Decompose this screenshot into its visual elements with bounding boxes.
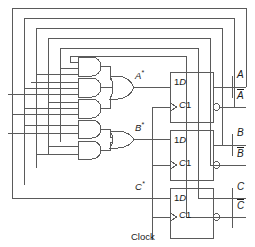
and-a-to-or-a-wires	[101, 67, 112, 109]
feedback-loop-1	[12, 8, 246, 198]
circuit-diagram: A* B* C* 1D C1 1D C1 1D C1 A A B B C C C…	[0, 0, 255, 247]
flipflop-c-clock-triangle	[170, 213, 177, 221]
output-label-b: B	[237, 127, 244, 138]
and-gate-b2	[78, 141, 101, 159]
and-gate-a2	[78, 78, 101, 97]
output-label-a-bar: A	[237, 90, 244, 101]
left-bus-horizontals	[8, 94, 12, 114]
and-gate-a3	[78, 99, 101, 118]
circuit-schematic-svg	[0, 0, 255, 247]
or-gate-b	[110, 131, 134, 148]
flipflop-a-data-label: 1D	[174, 76, 186, 87]
or-gate-a	[110, 76, 134, 99]
signal-label-c-next: C*	[135, 180, 145, 192]
flipflop-b-data-label: 1D	[174, 134, 186, 145]
clock-label: Clock	[131, 231, 155, 242]
flipflop-b-clock-label: C1	[179, 157, 191, 168]
gate-input-bus-lines	[8, 62, 78, 154]
and-gate-b1	[78, 120, 101, 138]
signal-label-a-next: A*	[135, 69, 144, 81]
flipflop-a-qbar-bubble	[213, 104, 219, 110]
flipflop-a-clock-triangle	[170, 103, 177, 111]
flipflop-b-clock-triangle	[170, 161, 177, 169]
output-label-c-bar: C	[237, 200, 244, 211]
feedback-loop-3	[36, 28, 222, 168]
feedback-loop-5	[60, 48, 198, 185]
output-label-b-bar: B	[237, 148, 244, 159]
and-gate-a1	[78, 57, 101, 76]
flipflop-c-data-label: 1D	[174, 192, 186, 203]
flipflop-a-clock-label: C1	[179, 99, 191, 110]
output-label-c: C	[237, 181, 244, 192]
flipflop-c-clock-label: C1	[179, 209, 191, 220]
signal-label-b-next: B*	[135, 121, 144, 133]
output-label-a: A	[237, 69, 244, 80]
